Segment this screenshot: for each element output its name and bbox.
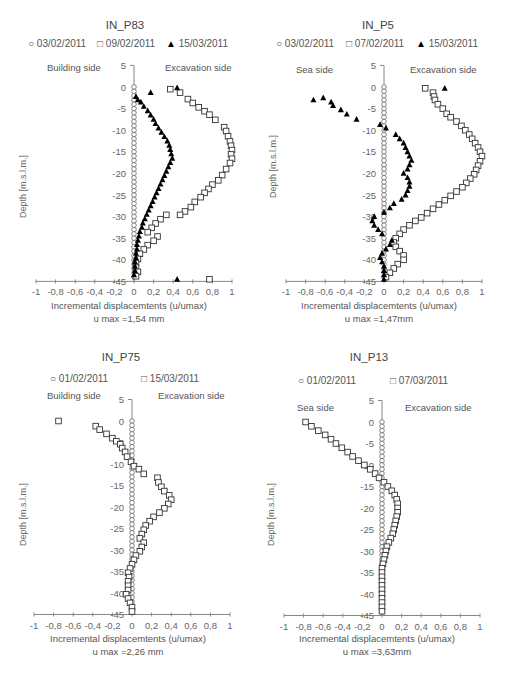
chart-panel-in-p5: IN_P5 ○ 03/02/2011 □ 07/02/2011 ▲ 15/03/… — [250, 0, 500, 330]
y-tick-label: -30 — [110, 545, 124, 556]
x-tick-label: 1 — [477, 621, 482, 632]
chart-panel-in-p75: IN_P75 ○ 01/02/2011 □ 15/03/2011 Buildin… — [0, 340, 250, 670]
umax-note: u max =2,26 mm — [3, 646, 253, 657]
data-point — [157, 510, 163, 516]
x-tick-label: 0,4 — [415, 621, 428, 632]
y-tick-label: -25 — [110, 523, 124, 534]
data-point — [207, 276, 213, 282]
x-tick-label: -0,6 — [65, 620, 81, 631]
y-tick-label: -45 — [112, 276, 126, 287]
data-point — [167, 86, 173, 92]
data-point — [303, 419, 309, 425]
x-tick-label: -0,2 — [354, 621, 370, 632]
y-tick-label: -15 — [360, 481, 374, 492]
x-tick-label: 0,6 — [186, 286, 199, 297]
x-tick-label: -0,4 — [85, 620, 101, 631]
y-tick-label: -20 — [362, 168, 376, 179]
y-tick-label: 0 — [121, 82, 126, 93]
y-tick-label: -10 — [110, 459, 124, 470]
data-point — [393, 131, 399, 137]
x-tick-label: -1 — [32, 286, 40, 297]
y-tick-label: 5 — [119, 394, 124, 405]
data-point — [174, 276, 180, 282]
x-tick-label: -0,2 — [104, 620, 120, 631]
x-tick-label: 0,2 — [395, 621, 408, 632]
data-point — [215, 178, 221, 184]
data-point — [198, 194, 204, 200]
x-axis-label: Incremental displacemtents (u/umax) — [252, 633, 502, 644]
x-tick-label: 0,6 — [434, 621, 447, 632]
data-point — [320, 95, 326, 101]
data-point — [190, 100, 196, 106]
y-tick-label: -20 — [360, 503, 374, 514]
data-point — [177, 90, 183, 96]
data-point — [97, 427, 103, 433]
y-tick-label: -20 — [112, 168, 126, 179]
y-tick-label: -10 — [362, 125, 376, 136]
x-tick-label: 0,2 — [397, 286, 410, 297]
y-tick-label: -40 — [362, 254, 376, 265]
x-tick-label: 0,2 — [145, 620, 158, 631]
data-point — [442, 85, 448, 91]
data-point — [339, 445, 345, 451]
data-point — [333, 441, 339, 447]
data-point — [148, 89, 154, 95]
x-tick-label: 0,4 — [167, 286, 180, 297]
y-tick-label: -25 — [112, 190, 126, 201]
data-point — [350, 454, 356, 460]
y-tick-label: 0 — [119, 416, 124, 427]
x-tick-label: -1 — [30, 620, 38, 631]
data-point — [174, 85, 180, 91]
x-tick-label: 0 — [381, 286, 386, 297]
x-tick-label: -0,2 — [356, 286, 372, 297]
y-tick-label: -40 — [110, 588, 124, 599]
umax-note: u max =1,47mm — [254, 313, 504, 324]
y-tick-label: -15 — [112, 146, 126, 157]
x-axis-label: Incremental displacemtents (u/umax) — [254, 300, 504, 311]
x-tick-label: -1 — [282, 286, 290, 297]
x-tick-label: 0 — [129, 620, 134, 631]
y-tick-label: -45 — [362, 276, 376, 287]
data-point — [422, 85, 428, 91]
scatter-plot: -1-0,8-0,6-0,4-0,200,20,40,60,8150-5-10-… — [250, 0, 500, 300]
data-point — [310, 97, 316, 103]
y-tick-label: 0 — [371, 82, 376, 93]
data-point — [424, 210, 430, 216]
x-tick-label: -0,6 — [317, 286, 333, 297]
data-point — [401, 257, 407, 263]
y-tick-label: 5 — [369, 395, 374, 406]
data-point — [309, 424, 315, 430]
y-tick-label: -20 — [110, 502, 124, 513]
data-point — [213, 117, 219, 123]
data-point — [338, 107, 344, 113]
y-tick-label: -25 — [362, 190, 376, 201]
data-point — [354, 116, 360, 122]
x-tick-label: -0,8 — [45, 620, 61, 631]
data-point — [407, 222, 413, 228]
data-point — [454, 189, 460, 195]
y-tick-label: -30 — [112, 211, 126, 222]
y-tick-label: -30 — [360, 546, 374, 557]
y-tick-label: -45 — [360, 610, 374, 621]
x-axis-label: Incremental displacemtents (u/umax) — [3, 633, 253, 644]
data-point — [207, 112, 213, 118]
data-point — [164, 212, 170, 218]
y-tick-label: -35 — [110, 566, 124, 577]
data-point — [177, 212, 183, 218]
y-tick-label: -15 — [362, 146, 376, 157]
x-tick-label: 0 — [131, 286, 136, 297]
data-point — [442, 197, 448, 203]
data-point — [145, 229, 151, 235]
x-tick-label: 1 — [227, 620, 232, 631]
x-tick-label: -0,6 — [315, 621, 331, 632]
data-point — [362, 462, 368, 468]
x-tick-label: -0,4 — [335, 621, 351, 632]
y-tick-label: -35 — [360, 567, 374, 578]
y-tick-label: -5 — [368, 103, 376, 114]
x-tick-label: -0,6 — [67, 286, 83, 297]
data-point — [436, 202, 442, 208]
data-point — [129, 609, 135, 615]
y-tick-label: -45 — [110, 609, 124, 620]
data-point — [141, 471, 147, 477]
y-tick-label: -35 — [362, 233, 376, 244]
